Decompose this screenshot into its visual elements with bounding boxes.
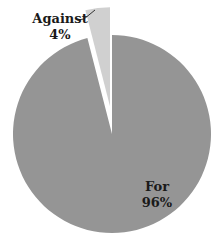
pie-slice-for [13, 35, 211, 233]
label-against-pct: 4% [49, 27, 71, 42]
pie-chart: Against 4% For 96% [0, 0, 224, 247]
label-for-pct: 96% [142, 195, 173, 210]
label-for-name: For [145, 179, 169, 194]
label-against-name: Against [31, 11, 87, 26]
